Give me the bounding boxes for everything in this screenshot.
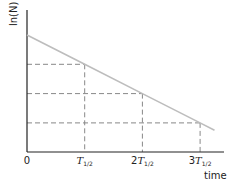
- x-tick-label: T1/2: [77, 156, 93, 167]
- x-axis-label: time: [204, 171, 227, 181]
- y-axis-label: ln(N): [9, 2, 19, 26]
- x-tick-label: 2T1/2: [131, 156, 154, 167]
- decay-line: [27, 35, 215, 130]
- x-tick-label: 3T1/2: [189, 156, 212, 167]
- reference-dashed-lines: [27, 64, 200, 152]
- x-tick-label: 0: [24, 156, 30, 166]
